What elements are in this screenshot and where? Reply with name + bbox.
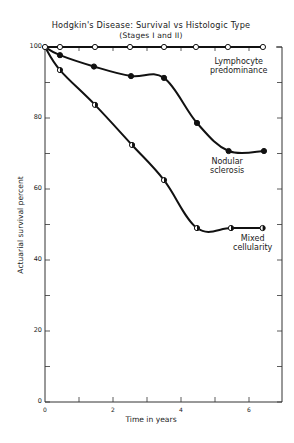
- data-point-nodular-sclerosis: [57, 53, 62, 58]
- series-label-line: Mixed: [233, 234, 272, 243]
- data-point-nodular-sclerosis: [261, 148, 266, 153]
- data-point-nodular-sclerosis: [161, 75, 166, 80]
- series-label-lymphocyte: Lymphocyte predominance: [210, 57, 267, 75]
- data-point-lymphocyte-predominance: [193, 44, 198, 49]
- series-label-line: predominance: [210, 66, 267, 75]
- data-point-lymphocyte-predominance: [225, 44, 230, 49]
- y-tick-label: 80: [20, 113, 42, 121]
- y-tick-label: 0: [20, 397, 42, 405]
- chart-subtitle: (Stages I and II): [4, 31, 294, 40]
- chart-title: Hodgkin's Disease: Survival vs Histologi…: [4, 20, 294, 30]
- x-tick-label: 0: [39, 406, 51, 413]
- x-tick-label: 2: [107, 406, 119, 413]
- x-axis-label: Time in years: [0, 415, 294, 424]
- series-label-line: Nodular: [210, 157, 244, 166]
- series-label-line: sclerosis: [210, 166, 244, 175]
- data-point-lymphocyte-predominance: [260, 44, 265, 49]
- series-label-line: cellularity: [233, 243, 272, 252]
- y-tick-label: 60: [20, 184, 42, 192]
- data-point-nodular-sclerosis: [194, 120, 199, 125]
- data-point-lymphocyte-predominance: [42, 44, 47, 49]
- chart-axes: [45, 47, 282, 402]
- data-point-nodular-sclerosis: [128, 74, 133, 79]
- data-point-nodular-sclerosis: [91, 64, 96, 69]
- data-point-lymphocyte-predominance: [57, 44, 62, 49]
- data-point-nodular-sclerosis: [226, 148, 231, 153]
- series-label-line: Lymphocyte: [210, 57, 267, 66]
- x-tick-label: 6: [243, 406, 255, 413]
- data-point-lymphocyte-predominance: [161, 44, 166, 49]
- x-tick-label: 4: [175, 406, 187, 413]
- y-tick-label: 20: [20, 326, 42, 334]
- series-label-nodular: Nodular sclerosis: [210, 157, 244, 175]
- data-point-lymphocyte-predominance: [92, 44, 97, 49]
- series-label-mixed: Mixed cellularity: [233, 234, 272, 252]
- y-tick-label: 40: [20, 255, 42, 263]
- y-tick-label: 100: [20, 42, 42, 50]
- data-point-lymphocyte-predominance: [127, 44, 132, 49]
